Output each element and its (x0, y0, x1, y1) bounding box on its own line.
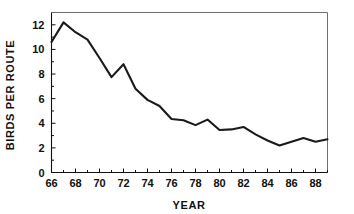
x-tick-label: 76 (165, 177, 177, 189)
y-tick-label: 0 (38, 167, 44, 179)
chart-container: 666870727476788082848688 024681012 YEAR … (0, 0, 354, 214)
x-tick-label: 88 (309, 177, 321, 189)
x-tick-label: 68 (69, 177, 81, 189)
x-tick-label: 84 (261, 177, 274, 189)
x-tick-label: 70 (93, 177, 105, 189)
y-tick-label: 10 (32, 43, 44, 55)
line-chart: 666870727476788082848688 024681012 YEAR … (0, 0, 354, 214)
x-tick-label: 72 (117, 177, 129, 189)
x-axis-title: YEAR (173, 199, 206, 211)
x-tick-label: 86 (285, 177, 297, 189)
x-tick-label: 74 (141, 177, 154, 189)
x-tick-label: 82 (237, 177, 249, 189)
y-tick-label: 12 (32, 19, 44, 31)
y-tick-label: 6 (38, 93, 44, 105)
y-tick-label: 8 (38, 68, 44, 80)
y-tick-label: 4 (38, 117, 45, 129)
x-tick-label: 78 (189, 177, 201, 189)
x-tick-label: 66 (45, 177, 57, 189)
y-tick-label: 2 (38, 142, 44, 154)
y-axis-title: BIRDS PER ROUTE (4, 40, 16, 150)
x-tick-label: 80 (213, 177, 225, 189)
